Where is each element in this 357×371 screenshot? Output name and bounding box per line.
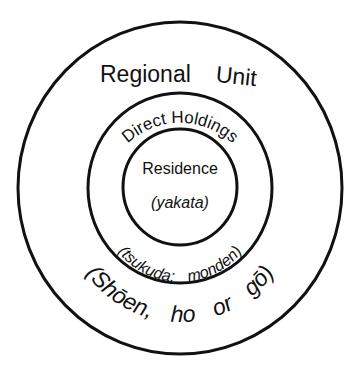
outer-ring-title-unit: Unit	[215, 61, 259, 91]
inner-ring-circle	[123, 129, 237, 245]
outer-ring-title-regional: Regional	[100, 61, 191, 87]
concentric-diagram: Regional Unit Direct Holdings Residence …	[0, 0, 357, 371]
inner-ring-subtitle: (yakata)	[151, 194, 209, 211]
middle-ring-title: Direct Holdings	[118, 108, 242, 147]
inner-ring-title: Residence	[142, 160, 218, 177]
middle-ring-subtitle: (tsukuda; monden)	[115, 242, 244, 285]
